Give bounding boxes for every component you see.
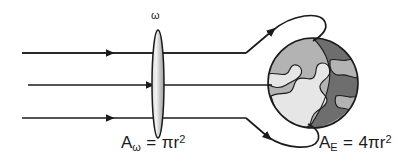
bottom-ray-bend — [246, 118, 268, 137]
lens-area-exponent: 2 — [179, 133, 185, 145]
lens-area-value: πr — [162, 133, 179, 152]
top-ray-bend — [246, 31, 272, 53]
earth-area-base: A — [319, 133, 330, 152]
lens-area-base: A — [121, 133, 132, 152]
lens — [152, 30, 164, 138]
earth-sphere — [268, 38, 358, 128]
earth-area-exponent: 2 — [385, 133, 391, 145]
lens-body — [152, 30, 164, 138]
earth-area-subscript: E — [330, 141, 337, 153]
omega-symbol-label: ω — [151, 10, 160, 21]
lens-area-subscript: ω — [132, 141, 141, 153]
earth-area-equals: = — [338, 133, 359, 152]
earth-area-value: 4πr — [359, 133, 386, 152]
top-ray-wrap-curve — [272, 16, 326, 41]
solar-flux-diagram: ω Aω = πr2 AE = 4πr2 — [0, 0, 406, 162]
lens-area-label: Aω = πr2 — [121, 134, 185, 153]
lens-area-equals: = — [141, 133, 162, 152]
earth-area-label: AE = 4πr2 — [319, 134, 392, 153]
